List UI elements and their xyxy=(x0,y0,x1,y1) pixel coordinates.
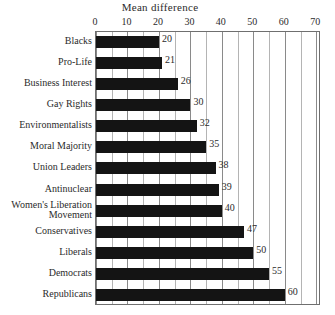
bar-value-label: 32 xyxy=(197,117,210,128)
chart-title: Mean difference xyxy=(0,1,320,13)
category-label: Gay Rights xyxy=(0,99,92,110)
x-tick-label: 40 xyxy=(216,16,226,27)
x-tick-label: 70 xyxy=(310,16,320,27)
x-tick-label: 0 xyxy=(93,16,98,27)
x-tick-label: 60 xyxy=(279,16,289,27)
bar xyxy=(96,247,253,259)
bar-value-label: 21 xyxy=(162,54,175,65)
x-tick-label: 20 xyxy=(153,16,163,27)
category-label: Liberals xyxy=(0,247,92,258)
bar-value-label: 26 xyxy=(178,75,191,86)
bar xyxy=(96,184,219,196)
bar-value-label: 30 xyxy=(190,96,203,107)
bar-value-label: 60 xyxy=(285,286,298,297)
bar xyxy=(96,78,178,90)
x-tick-label: 50 xyxy=(247,16,257,27)
x-tick-label: 30 xyxy=(184,16,194,27)
category-labels: BlacksPro-LifeBusiness InterestGay Right… xyxy=(0,31,92,305)
category-label: Democrats xyxy=(0,268,92,279)
plot-area: 20212630323538394047505560 xyxy=(95,31,320,305)
bar-row: 21 xyxy=(96,53,319,74)
cut-off-text-sliver: · · ·· · ·· xyxy=(0,310,335,315)
bar-row: 39 xyxy=(96,180,319,201)
category-label: Republicans xyxy=(0,289,92,300)
x-tick-label: 10 xyxy=(121,16,131,27)
bar xyxy=(96,226,244,238)
category-label: Conservatives xyxy=(0,226,92,237)
bar xyxy=(96,268,269,280)
bar xyxy=(96,99,190,111)
x-axis-tick-labels: 010203040506070 xyxy=(0,16,335,30)
bar-chart: Mean difference 010203040506070 20212630… xyxy=(0,0,335,315)
category-label: Environmentalists xyxy=(0,120,92,131)
category-label: Women's Liberation Movement xyxy=(0,200,92,221)
bar-row: 35 xyxy=(96,137,319,158)
bar xyxy=(96,57,162,69)
bar-value-label: 35 xyxy=(206,138,219,149)
bar-row: 55 xyxy=(96,264,319,285)
bar xyxy=(96,162,216,174)
bar xyxy=(96,120,197,132)
category-label: Moral Majority xyxy=(0,141,92,152)
category-label: Pro-Life xyxy=(0,57,92,68)
bar-value-label: 55 xyxy=(269,265,282,276)
bar-row: 60 xyxy=(96,285,319,306)
bar-row: 20 xyxy=(96,32,319,53)
bar-value-label: 50 xyxy=(253,244,266,255)
bar-row: 26 xyxy=(96,74,319,95)
bar-rows: 20212630323538394047505560 xyxy=(96,32,319,304)
bar-row: 40 xyxy=(96,201,319,222)
bar-value-label: 38 xyxy=(216,159,229,170)
category-label: Union Leaders xyxy=(0,162,92,173)
bar-value-label: 40 xyxy=(222,202,235,213)
bar xyxy=(96,36,159,48)
bar-row: 38 xyxy=(96,158,319,179)
bar-row: 47 xyxy=(96,222,319,243)
category-label: Blacks xyxy=(0,36,92,47)
category-label: Business Interest xyxy=(0,78,92,89)
bar-row: 50 xyxy=(96,243,319,264)
bar xyxy=(96,205,222,217)
bar-row: 32 xyxy=(96,116,319,137)
bar-value-label: 20 xyxy=(159,33,172,44)
bar xyxy=(96,289,285,301)
bar-row: 30 xyxy=(96,95,319,116)
bar-value-label: 47 xyxy=(244,223,257,234)
category-label: Antinuclear xyxy=(0,184,92,195)
bar xyxy=(96,141,206,153)
bar-value-label: 39 xyxy=(219,181,232,192)
